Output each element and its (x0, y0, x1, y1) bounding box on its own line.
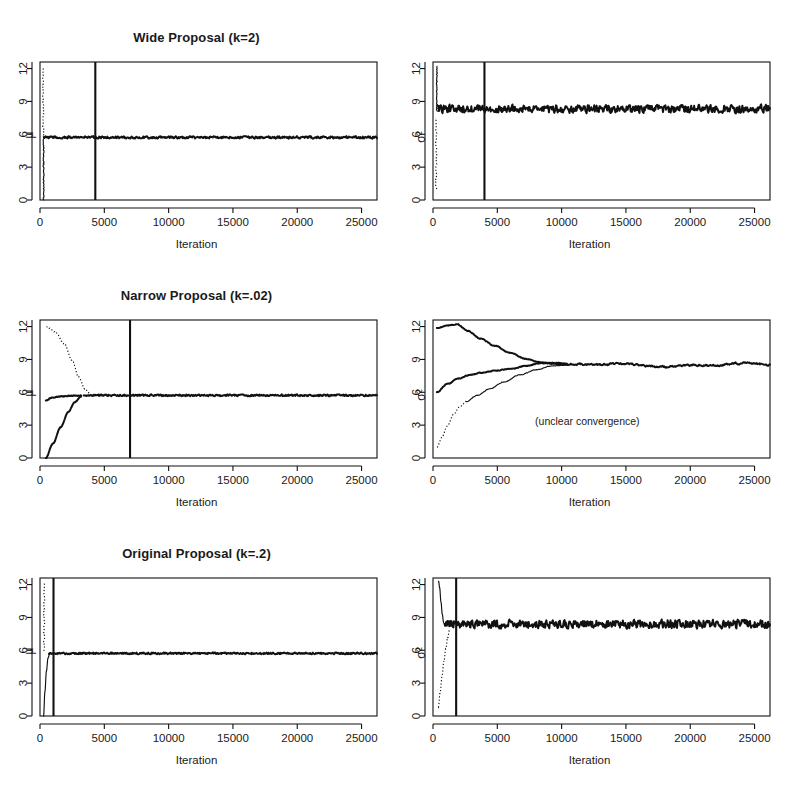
svg-text:0: 0 (410, 713, 422, 719)
svg-text:9: 9 (17, 614, 29, 620)
svg-text:20000: 20000 (281, 216, 313, 228)
svg-text:0: 0 (17, 713, 29, 719)
plot-area-wide-sigma2: 0369120500010000150002000025000 (393, 0, 786, 270)
panel-wide-sigma2: σ² 0369120500010000150002000025000 Itera… (393, 0, 786, 270)
svg-text:5000: 5000 (485, 216, 511, 228)
svg-text:20000: 20000 (281, 474, 313, 486)
svg-text:9: 9 (410, 98, 422, 104)
svg-text:15000: 15000 (610, 732, 642, 744)
panel-narrow-mu: Narrow Proposal (k=.02) μ 03691205000100… (0, 258, 393, 528)
x-axis-label: Iteration (393, 496, 786, 508)
svg-text:12: 12 (410, 578, 422, 591)
svg-text:0: 0 (430, 474, 436, 486)
figure-canvas: Wide Proposal (k=2) μ 036912050001000015… (0, 0, 786, 811)
x-axis-label: Iteration (0, 754, 393, 766)
svg-text:3: 3 (17, 680, 29, 686)
svg-text:9: 9 (17, 356, 29, 362)
x-axis-label: Iteration (0, 238, 393, 250)
svg-text:5000: 5000 (92, 216, 118, 228)
svg-text:9: 9 (17, 98, 29, 104)
svg-text:0: 0 (410, 455, 422, 461)
svg-text:12: 12 (17, 320, 29, 333)
svg-text:3: 3 (410, 422, 422, 428)
svg-text:3: 3 (17, 422, 29, 428)
svg-text:10000: 10000 (153, 732, 185, 744)
svg-text:3: 3 (17, 164, 29, 170)
svg-text:6: 6 (17, 647, 29, 653)
svg-text:0: 0 (37, 732, 43, 744)
x-axis-label: Iteration (393, 238, 786, 250)
svg-text:5000: 5000 (485, 474, 511, 486)
svg-text:5000: 5000 (92, 732, 118, 744)
svg-text:9: 9 (410, 614, 422, 620)
svg-text:6: 6 (17, 389, 29, 395)
svg-text:6: 6 (17, 131, 29, 137)
svg-text:12: 12 (17, 578, 29, 591)
svg-text:6: 6 (410, 647, 422, 653)
svg-text:0: 0 (430, 732, 436, 744)
svg-text:15000: 15000 (610, 474, 642, 486)
panel-original-sigma2: σ² 0369120500010000150002000025000 Itera… (393, 516, 786, 786)
panel-original-mu: Original Proposal (k=.2) μ 0369120500010… (0, 516, 393, 786)
plot-area-original-sigma2: 0369120500010000150002000025000 (393, 516, 786, 786)
svg-text:0: 0 (37, 474, 43, 486)
annotation-unclear-convergence: (unclear convergence) (535, 415, 639, 427)
svg-text:0: 0 (37, 216, 43, 228)
panel-narrow-sigma2: σ² 0369120500010000150002000025000(uncle… (393, 258, 786, 528)
svg-text:25000: 25000 (739, 216, 771, 228)
svg-text:10000: 10000 (546, 732, 578, 744)
svg-text:9: 9 (410, 356, 422, 362)
svg-text:5000: 5000 (485, 732, 511, 744)
svg-text:15000: 15000 (217, 216, 249, 228)
svg-text:6: 6 (410, 131, 422, 137)
svg-text:25000: 25000 (739, 732, 771, 744)
plot-area-narrow-mu: 0369120500010000150002000025000 (0, 258, 393, 528)
svg-text:6: 6 (410, 389, 422, 395)
plot-area-narrow-sigma2: 0369120500010000150002000025000(unclear … (393, 258, 786, 528)
panel-wide-mu: Wide Proposal (k=2) μ 036912050001000015… (0, 0, 393, 270)
svg-text:25000: 25000 (346, 474, 378, 486)
svg-text:20000: 20000 (674, 216, 706, 228)
svg-text:3: 3 (410, 680, 422, 686)
plot-area-wide-mu: 0369120500010000150002000025000 (0, 0, 393, 270)
plot-area-original-mu: 0369120500010000150002000025000 (0, 516, 393, 786)
svg-text:25000: 25000 (739, 474, 771, 486)
svg-text:0: 0 (17, 455, 29, 461)
svg-text:12: 12 (410, 62, 422, 75)
svg-text:10000: 10000 (546, 216, 578, 228)
svg-text:5000: 5000 (92, 474, 118, 486)
svg-text:3: 3 (410, 164, 422, 170)
svg-text:15000: 15000 (217, 474, 249, 486)
svg-text:25000: 25000 (346, 732, 378, 744)
svg-text:12: 12 (17, 62, 29, 75)
svg-text:25000: 25000 (346, 216, 378, 228)
svg-text:0: 0 (17, 197, 29, 203)
svg-text:10000: 10000 (153, 216, 185, 228)
svg-text:15000: 15000 (610, 216, 642, 228)
svg-text:0: 0 (430, 216, 436, 228)
x-axis-label: Iteration (0, 496, 393, 508)
svg-text:0: 0 (410, 197, 422, 203)
svg-text:10000: 10000 (546, 474, 578, 486)
svg-text:12: 12 (410, 320, 422, 333)
x-axis-label: Iteration (393, 754, 786, 766)
svg-text:15000: 15000 (217, 732, 249, 744)
svg-text:20000: 20000 (281, 732, 313, 744)
svg-text:20000: 20000 (674, 732, 706, 744)
svg-text:20000: 20000 (674, 474, 706, 486)
svg-text:10000: 10000 (153, 474, 185, 486)
